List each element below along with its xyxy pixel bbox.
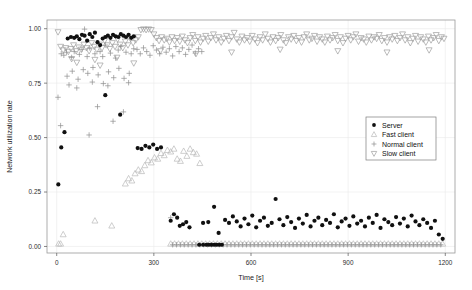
data-point [246, 222, 250, 226]
data-point [122, 181, 128, 186]
data-point [64, 73, 69, 78]
data-point [305, 213, 309, 217]
data-point [170, 53, 175, 58]
data-point [382, 217, 386, 221]
data-point [187, 225, 191, 229]
data-point [173, 44, 178, 49]
data-point [375, 213, 379, 217]
data-point [297, 216, 301, 220]
data-point [175, 216, 179, 220]
data-point [142, 162, 148, 167]
x-axis-title: Time [s] [238, 273, 263, 282]
data-point [129, 178, 135, 183]
data-point [441, 237, 445, 241]
data-point [103, 93, 107, 97]
data-point [59, 145, 63, 149]
data-point [157, 49, 163, 54]
data-point [437, 232, 441, 236]
data-point [379, 38, 385, 43]
data-point [283, 41, 289, 46]
legend-label-fast-client: Fast client [382, 131, 414, 138]
data-point [131, 46, 136, 51]
data-point [143, 144, 147, 148]
data-point [312, 219, 316, 223]
data-point [281, 223, 285, 227]
legend-label-slow-client: Slow client [382, 150, 416, 157]
data-point [110, 119, 115, 124]
x-tick-label: 300 [149, 259, 160, 266]
y-tick-label: 0.50 [29, 134, 42, 141]
data-point [239, 224, 243, 228]
data-point [151, 142, 155, 146]
data-point [55, 30, 61, 35]
data-point [277, 47, 283, 52]
data-point [111, 75, 116, 80]
data-point [187, 146, 193, 151]
data-point [75, 76, 80, 81]
data-point [147, 145, 151, 149]
data-point [181, 148, 187, 153]
data-point [169, 219, 173, 223]
data-point [359, 219, 363, 223]
data-point [421, 217, 425, 221]
data-point [154, 47, 159, 52]
data-point [402, 216, 406, 220]
data-point [172, 212, 176, 216]
data-point [328, 221, 332, 225]
data-point [95, 104, 100, 109]
data-point [167, 46, 172, 51]
data-point [116, 66, 121, 71]
data-point [184, 153, 190, 158]
data-point [363, 224, 367, 228]
data-point [141, 45, 146, 50]
y-tick-labels: 0.000.250.500.751.00 [29, 25, 42, 250]
data-point [131, 61, 137, 66]
data-point [347, 224, 351, 228]
data-point [134, 47, 139, 52]
data-point [426, 48, 432, 53]
data-point [425, 221, 429, 225]
data-point [59, 51, 64, 56]
data-point [277, 217, 281, 221]
data-point [85, 39, 89, 43]
data-point [77, 37, 81, 41]
data-point [266, 224, 270, 228]
data-point [413, 219, 417, 223]
data-point [95, 72, 100, 77]
data-point [410, 213, 414, 217]
data-point [148, 159, 154, 164]
y-tick-label: 0.00 [29, 243, 42, 250]
data-point [147, 53, 152, 58]
data-point [136, 146, 140, 150]
data-point [293, 38, 299, 43]
data-point [81, 67, 86, 72]
data-point [212, 205, 216, 209]
data-point [262, 216, 266, 220]
series-fast-client [56, 146, 446, 246]
data-point [143, 28, 149, 33]
data-point [332, 212, 336, 216]
data-point [190, 149, 196, 154]
data-point [160, 44, 165, 49]
data-point [398, 222, 402, 226]
data-point [90, 65, 95, 70]
x-tick-label: 900 [343, 259, 354, 266]
data-point [417, 223, 421, 227]
data-point [90, 79, 95, 84]
data-point [394, 215, 398, 219]
data-point [69, 55, 74, 60]
data-point [138, 51, 143, 56]
data-point [343, 216, 347, 220]
data-point [367, 216, 371, 220]
data-point [159, 145, 163, 149]
data-point [336, 225, 340, 229]
legend-marker-server [372, 123, 376, 127]
data-point [90, 35, 94, 39]
data-point [308, 224, 312, 228]
data-point [242, 216, 246, 220]
data-point [270, 221, 274, 225]
data-point [97, 63, 103, 68]
data-point [82, 26, 87, 31]
chart-svg: 03006009001200 0.000.250.500.751.00 Time… [0, 0, 472, 290]
data-point [138, 28, 144, 33]
